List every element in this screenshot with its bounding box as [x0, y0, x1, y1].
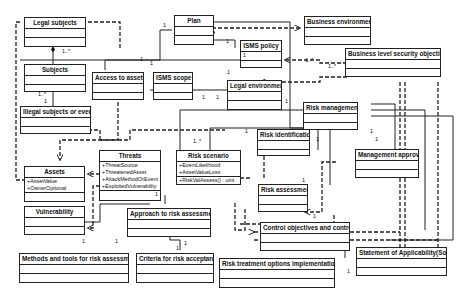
- class-isms-scope[interactable]: ISMS scope: [153, 72, 193, 100]
- multiplicity-label: 1: [150, 60, 153, 66]
- class-name: Vulnerability: [25, 207, 84, 218]
- multiplicity-label: 1: [140, 56, 143, 62]
- class-name: Statement of Applicability(SoA): [357, 248, 446, 259]
- class-name: Subjects: [25, 65, 85, 76]
- class-name: Plan: [175, 16, 213, 27]
- multiplicity-label: 1: [184, 240, 187, 246]
- multiplicity-label: 1..*: [62, 48, 70, 54]
- class-name: Risk treatment options implementation: [220, 259, 334, 270]
- class-vulnerability[interactable]: Vulnerability: [24, 206, 85, 235]
- class-plan[interactable]: Plan: [174, 15, 214, 45]
- class-isms-policy[interactable]: ISMS policy 1: [240, 40, 282, 68]
- class-legal-environment[interactable]: Legal environment: [227, 80, 282, 110]
- class-name: Methods and tools for risk assessment: [20, 254, 128, 265]
- multiplicity-label: 1: [44, 98, 47, 104]
- multiplicity-label: 1..*: [38, 91, 46, 97]
- class-risk-identification[interactable]: Risk identification: [257, 129, 310, 156]
- class-business-environment[interactable]: Business environment: [304, 16, 371, 45]
- class-illegal-subjects[interactable]: Illegal subjects or events: [20, 106, 91, 134]
- multiplicity-label: 1: [285, 98, 288, 104]
- class-approach-to-risk-assessment[interactable]: Approach to risk assessment: [127, 208, 211, 237]
- class-attributes: [25, 29, 85, 38]
- class-name: Risk identification: [258, 130, 309, 141]
- class-name: Legal environment: [228, 81, 281, 92]
- multiplicity-label: 1: [313, 213, 316, 219]
- class-control-objectives-and-controls[interactable]: Control objectives and controls: [260, 222, 350, 251]
- multiplicity-label: 1: [375, 136, 378, 142]
- class-subjects[interactable]: Subjects: [24, 64, 86, 92]
- multiplicity-label: 1..*: [328, 63, 336, 69]
- class-methods-and-tools[interactable]: Methods and tools for risk assessment: [19, 253, 129, 283]
- multiplicity-label: 1: [347, 268, 350, 274]
- class-name: ISMS scope: [154, 73, 192, 84]
- class-risk-management[interactable]: Risk management: [303, 102, 358, 130]
- multiplicity-label: 1: [176, 245, 179, 251]
- class-risk-assessment[interactable]: Risk assessment: [258, 184, 308, 212]
- class-name: Control objectives and controls: [261, 223, 349, 234]
- multiplicity-label: 1: [370, 128, 373, 134]
- class-name: Criteria for risk acceptance: [137, 254, 213, 265]
- multiplicity-label: 1: [115, 238, 118, 244]
- multiplicity-label: 1: [227, 69, 230, 75]
- multiplicity-label: 1: [163, 22, 166, 28]
- class-legal-subjects[interactable]: Legal subjects: [24, 17, 86, 47]
- class-name: Illegal subjects or events: [21, 107, 90, 118]
- class-name: Risk management: [304, 103, 357, 114]
- multiplicity-label: 1..*: [305, 57, 313, 63]
- multiplicity-label: 1: [302, 177, 305, 183]
- class-statement-of-applicability[interactable]: Statement of Applicability(SoA): [356, 247, 447, 276]
- class-business-level-security-objectives[interactable]: Business level security objectives: [345, 48, 441, 77]
- multiplicity-label: 1: [316, 136, 319, 142]
- class-name: Threats: [100, 151, 160, 162]
- class-name: Risk assessment: [259, 185, 307, 196]
- multiplicity-label: 1: [245, 128, 248, 134]
- class-assets[interactable]: Assets +AssetValue +OwnerOptional: [24, 166, 85, 202]
- multiplicity-label: 1: [216, 94, 219, 100]
- class-access-to-assets[interactable]: Access to assets: [92, 72, 144, 100]
- class-name: Access to assets: [93, 73, 143, 84]
- class-risk-scenario[interactable]: Risk scenario +EventLikelihood +AssetVal…: [176, 150, 241, 185]
- multiplicity-label: 1..*: [193, 138, 201, 144]
- class-risk-treatment-options[interactable]: Risk treatment options implementation: [219, 258, 335, 288]
- multiplicity-label: 1: [226, 38, 229, 44]
- class-name: Business level security objectives: [346, 49, 440, 60]
- class-name: Approach to risk assessment: [128, 209, 210, 220]
- uml-diagram-canvas: Legal subjects Subjects Illegal subjects…: [0, 0, 466, 303]
- multiplicity-label: 1: [82, 238, 85, 244]
- class-name: Risk scenario: [177, 151, 240, 162]
- class-name: Legal subjects: [25, 18, 85, 29]
- class-criteria-for-risk-acceptance[interactable]: Criteria for risk acceptance: [136, 253, 214, 283]
- class-management-approval[interactable]: Management approval: [355, 149, 419, 178]
- class-threats[interactable]: Threats +ThreatSource +ThreatenedAsset +…: [99, 150, 161, 201]
- multiplicity-label: 1: [202, 94, 205, 100]
- class-name: Management approval: [356, 150, 418, 161]
- class-name: Business environment: [305, 17, 370, 28]
- class-name: Assets: [25, 167, 84, 178]
- class-name: ISMS policy: [241, 41, 281, 52]
